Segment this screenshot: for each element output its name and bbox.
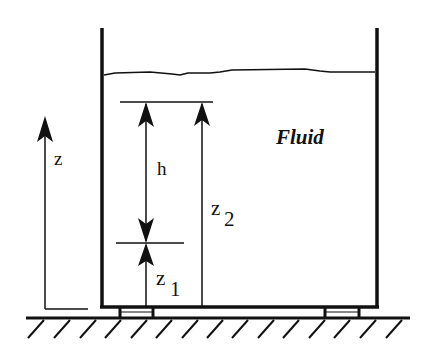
z1-subscript: 1 [170, 277, 181, 301]
z-axis-arrow [37, 116, 88, 309]
z-axis-label: z [54, 148, 62, 169]
fluid-free-surface [104, 69, 375, 75]
z1-label: z [156, 266, 165, 290]
z2-label: z [211, 196, 220, 220]
fluid-label: Fluid [275, 125, 324, 149]
fluid-tank-diagram: z h z 1 z 2 Fluid [0, 0, 430, 355]
z2-dimension-arrow [194, 102, 210, 307]
h-label: h [157, 158, 167, 179]
z1-dimension-arrow [138, 243, 154, 307]
ground-hatching [28, 320, 402, 338]
h-dimension-arrow [138, 102, 154, 243]
z2-subscript: 2 [224, 207, 235, 231]
